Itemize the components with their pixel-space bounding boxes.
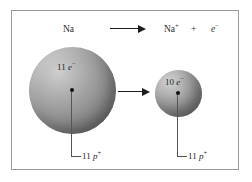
equation-reactant-label: Na xyxy=(63,25,74,35)
sodium-atom-leader-line-horizontal xyxy=(71,156,81,157)
sodium-ion-proton-label: 11 p+ xyxy=(188,152,207,161)
sodium-ion-electron-label: 10 e− xyxy=(165,78,184,87)
ionization-arrow-icon xyxy=(118,87,150,97)
electron-charge-superscript: − xyxy=(215,22,219,29)
sodium-atom-proton-label: 11 p+ xyxy=(82,152,101,161)
ion-charge-superscript: + xyxy=(175,22,179,29)
arrow-shaft xyxy=(110,28,139,29)
reaction-arrow-icon xyxy=(110,24,146,34)
proton-charge-superscript: + xyxy=(97,149,101,156)
sodium-atom-electron-label: 11 e− xyxy=(57,63,76,72)
electron-charge-superscript: − xyxy=(72,60,76,67)
electron-charge-superscript: − xyxy=(180,75,184,82)
figure-root: Na Na+ + e− 11 e− 11 p+ 10 e− 11 p+ xyxy=(0,0,252,182)
arrow-shaft xyxy=(118,91,143,92)
sodium-ion-leader-line-vertical xyxy=(177,95,178,156)
equation-plus-operator: + xyxy=(191,25,196,35)
proton-charge-superscript: + xyxy=(203,149,207,156)
arrow-head xyxy=(138,25,146,33)
sodium-ion-leader-line-horizontal xyxy=(177,156,187,157)
arrow-head xyxy=(142,88,150,96)
equation-product-ion-label: Na+ xyxy=(164,25,179,35)
sodium-atom-leader-line-vertical xyxy=(71,92,72,156)
equation-product-electron-label: e− xyxy=(211,25,219,35)
